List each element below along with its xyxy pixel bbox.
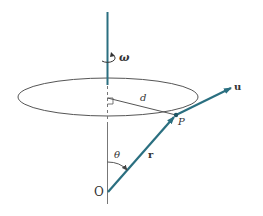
label-origin-O: O <box>94 186 104 198</box>
label-r: r <box>148 150 153 160</box>
label-d: d <box>140 93 146 103</box>
label-P: P <box>178 117 185 127</box>
label-omega: ω <box>119 52 129 63</box>
label-theta: θ <box>114 150 120 160</box>
diagram-canvas <box>0 0 263 216</box>
rotation-diagram: ω d P u r θ O <box>0 0 263 216</box>
unit-vector-u <box>176 88 231 115</box>
theta-angle-arc <box>108 162 128 170</box>
label-u: u <box>234 82 241 92</box>
